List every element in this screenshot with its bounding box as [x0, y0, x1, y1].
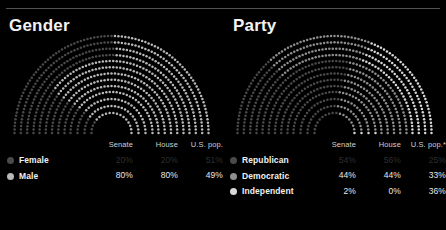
value-senate: 20% [88, 153, 133, 168]
legend-header-senate: Senate [311, 140, 356, 153]
value-senate: 44% [311, 168, 356, 183]
value-house: 20% [133, 153, 178, 168]
legend-label: Independent [242, 184, 294, 199]
legend-row-independent[interactable]: Independent 2% 0% 36% [223, 184, 446, 199]
value-senate: 2% [311, 184, 356, 199]
dot-arc-chart-party [223, 30, 446, 138]
legend-dot-icon [7, 157, 14, 164]
legend-name-cell: Independent [223, 184, 311, 199]
legend-name-cell: Male [0, 168, 88, 183]
value-uspop: 51% [178, 153, 223, 168]
legend-dot-icon [230, 157, 237, 164]
value-senate: 80% [88, 168, 133, 183]
panel-gender: Gender Senate House U.S. pop. [0, 0, 223, 230]
legend-header-row: Senate House U.S. pop. [0, 140, 223, 153]
legend-party: Senate House U.S. pop.* Republican 54% 5… [223, 140, 446, 199]
value-house: 80% [133, 168, 178, 183]
legend-header-uspop: U.S. pop. [178, 140, 223, 153]
legend-dot-icon [230, 188, 237, 195]
value-house: 0% [356, 184, 401, 199]
legend-header-name [0, 140, 88, 153]
legend-row-democratic[interactable]: Democratic 44% 44% 33% [223, 168, 446, 183]
legend-header-row: Senate House U.S. pop.* [223, 140, 446, 153]
legend-gender: Senate House U.S. pop. Female 20% 20% 51… [0, 140, 223, 184]
value-senate: 54% [311, 153, 356, 168]
value-uspop: 49% [178, 168, 223, 183]
visualization-root: Gender Senate House U.S. pop. [0, 0, 446, 230]
legend-table-gender: Senate House U.S. pop. Female 20% 20% 51… [0, 140, 223, 184]
legend-row-male[interactable]: Male 80% 80% 49% [0, 168, 223, 183]
legend-header-name [223, 140, 311, 153]
legend-table-party: Senate House U.S. pop.* Republican 54% 5… [223, 140, 446, 199]
value-uspop: 25% [401, 153, 446, 168]
value-uspop: 36% [401, 184, 446, 199]
value-house: 44% [356, 168, 401, 183]
legend-header-house: House [133, 140, 178, 153]
legend-label: Male [19, 169, 38, 184]
legend-header-senate: Senate [88, 140, 133, 153]
legend-header-uspop: U.S. pop.* [401, 140, 446, 153]
legend-row-female[interactable]: Female 20% 20% 51% [0, 153, 223, 168]
legend-name-cell: Female [0, 153, 88, 168]
legend-label: Democratic [242, 169, 289, 184]
legend-row-republican[interactable]: Republican 54% 56% 25% [223, 153, 446, 168]
legend-name-cell: Democratic [223, 168, 311, 183]
legend-dot-icon [7, 173, 14, 180]
legend-name-cell: Republican [223, 153, 311, 168]
value-uspop: 33% [401, 168, 446, 183]
dot-arc-chart-gender [0, 30, 223, 138]
panel-party: Party Senate House U.S. pop.* [223, 0, 446, 230]
legend-dot-icon [230, 173, 237, 180]
legend-label: Republican [242, 153, 289, 168]
value-house: 56% [356, 153, 401, 168]
legend-label: Female [19, 153, 49, 168]
legend-header-house: House [356, 140, 401, 153]
